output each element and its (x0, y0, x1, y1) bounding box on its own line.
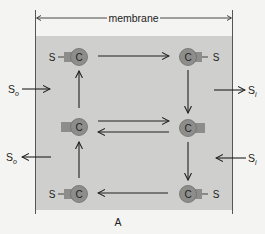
inside-substrate-top: S i (248, 84, 257, 98)
svg-text:S: S (8, 83, 15, 95)
membrane-width-indicator: membrane (37, 12, 232, 24)
carrier-label: C (75, 52, 82, 63)
carrier-transport-diagram: membrane C S C S C C C S (0, 0, 265, 234)
carrier-label: C (184, 189, 191, 200)
carrier-label: C (184, 52, 191, 63)
svg-text:S: S (248, 152, 255, 164)
substrate-label: S (49, 189, 56, 200)
svg-text:o: o (13, 158, 17, 165)
svg-text:i: i (255, 159, 257, 166)
svg-text:S: S (6, 151, 13, 163)
outside-substrate-top: S o (8, 83, 19, 97)
inside-substrate-bottom: S i (248, 152, 257, 166)
substrate-label: S (213, 189, 220, 200)
substrate-label: S (213, 52, 220, 63)
panel-label: A (114, 216, 121, 228)
substrate-label: S (49, 52, 56, 63)
outside-substrate-bottom: S o (6, 151, 17, 165)
carrier-label: C (184, 123, 191, 134)
membrane-label: membrane (108, 12, 158, 24)
carrier-label: C (75, 122, 82, 133)
svg-text:S: S (248, 84, 255, 96)
svg-text:i: i (255, 91, 257, 98)
carrier-label: C (75, 189, 82, 200)
svg-text:o: o (15, 90, 19, 97)
